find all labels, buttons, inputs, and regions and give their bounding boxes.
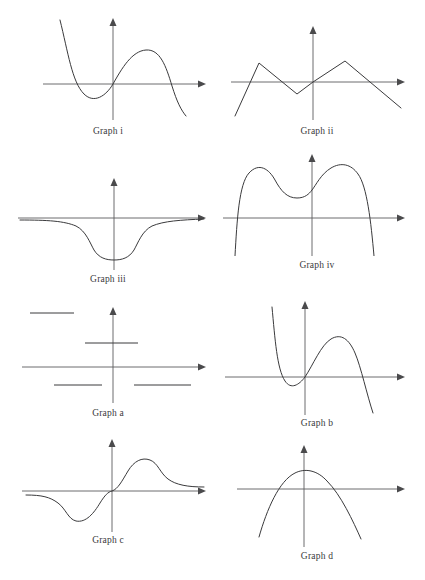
y-axis-arrowhead	[109, 439, 116, 447]
graph-i-plot	[8, 8, 208, 120]
graph-b-plot	[217, 295, 417, 415]
graph-b-label: Graph b	[217, 418, 417, 428]
graph-d-label: Graph d	[217, 551, 417, 561]
graph-iii-label: Graph iii	[8, 274, 208, 284]
y-axis-arrowhead	[110, 307, 117, 315]
graph-a-plot	[8, 295, 208, 403]
y-axis-arrowhead	[302, 301, 309, 309]
x-axis-arrowhead	[198, 214, 206, 221]
x-axis-arrowhead	[198, 363, 206, 370]
graph-iv-label: Graph iv	[217, 260, 417, 270]
graph-d-plot	[217, 437, 417, 547]
graph-iv-curve	[235, 165, 374, 256]
graph-iv-plot	[217, 150, 417, 256]
graph-i-curve	[60, 20, 186, 116]
y-axis-arrowhead	[310, 26, 317, 34]
figure-graph-d: Graph d	[217, 437, 417, 577]
graph-ii-label: Graph ii	[217, 126, 417, 136]
graph-ii-polyline	[235, 61, 401, 116]
x-axis-arrowhead	[397, 214, 405, 221]
figure-graph-a: Graph a	[8, 295, 208, 425]
graph-a-label: Graph a	[8, 408, 208, 418]
x-axis-arrowhead	[198, 80, 206, 87]
figure-graph-i: Graph i	[8, 8, 208, 138]
figure-graph-b: Graph b	[217, 295, 417, 430]
x-axis-arrowhead	[397, 78, 405, 85]
graph-b-curve	[272, 307, 373, 413]
graph-iii-plot	[8, 150, 208, 270]
graph-c-plot	[8, 437, 208, 532]
x-axis-arrowhead	[397, 373, 405, 380]
graph-d-curve	[259, 470, 361, 539]
figure-graph-c: Graph c	[8, 437, 208, 577]
graph-iii-curve	[20, 219, 204, 260]
graph-c-curve	[26, 459, 204, 521]
graph-ii-plot	[217, 8, 417, 120]
graph-c-label: Graph c	[8, 535, 208, 545]
y-axis-arrowhead	[309, 154, 316, 162]
figure-graph-iii: Graph iii	[8, 150, 208, 285]
figure-graph-iv: Graph iv	[217, 150, 417, 285]
y-axis-arrowhead	[301, 445, 308, 453]
x-axis-arrowhead	[397, 485, 405, 492]
y-axis-arrowhead	[111, 178, 118, 186]
y-axis-arrowhead	[110, 18, 117, 26]
figure-sheet: Graph i Graph ii Graph iii	[0, 0, 425, 580]
figure-graph-ii: Graph ii	[217, 8, 417, 138]
graph-i-label: Graph i	[8, 126, 208, 136]
x-axis-arrowhead	[198, 487, 206, 494]
